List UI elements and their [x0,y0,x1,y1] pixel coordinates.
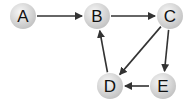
edge-d-to-b [100,31,108,72]
node-label: C [164,7,176,26]
node-label: A [17,7,29,26]
edge-c-to-e [164,30,168,71]
node-c: C [157,3,183,29]
node-a: A [10,3,36,29]
graph-canvas: ABCDE [0,0,194,104]
node-label: D [104,77,116,96]
node-e: E [150,73,176,99]
node-d: D [97,73,123,99]
edge-c-to-d [120,27,161,75]
nodes-layer: ABCDE [10,3,183,99]
node-b: B [84,3,110,29]
node-label: B [91,7,102,26]
node-label: E [157,77,168,96]
